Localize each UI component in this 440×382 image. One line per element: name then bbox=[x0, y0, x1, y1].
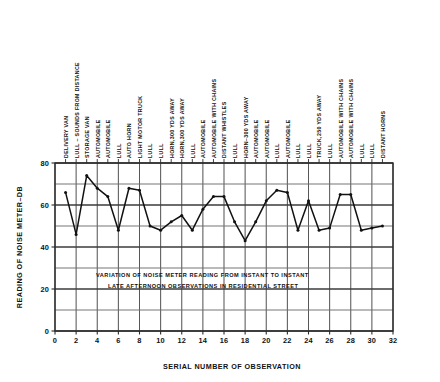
event-label: LULL bbox=[190, 143, 196, 158]
event-label: LULL bbox=[306, 143, 312, 158]
x-tick-label: 24 bbox=[304, 336, 313, 345]
event-label: AUTOMOBILE bbox=[95, 119, 101, 158]
event-label: LULL bbox=[295, 143, 301, 158]
x-tick-label: 32 bbox=[389, 336, 398, 345]
x-tick-label: 26 bbox=[325, 336, 334, 345]
x-tick-label: 10 bbox=[156, 336, 165, 345]
event-label: LULL – SOUNDS FROM DISTANCE bbox=[74, 62, 80, 158]
y-tick-label: 40 bbox=[40, 243, 49, 252]
x-tick-label: 2 bbox=[74, 336, 78, 345]
event-label: HORN–300 YDS AWAY bbox=[243, 96, 249, 158]
event-label: STORAGE VAN bbox=[84, 116, 90, 158]
event-label: AUTOMOBILE bbox=[105, 119, 111, 158]
event-label: AUTOMOBILE bbox=[285, 119, 291, 158]
event-label: LULL bbox=[274, 143, 280, 158]
event-label: LULL bbox=[369, 143, 375, 158]
event-label: TRUCK,250 YDS AWAY bbox=[316, 95, 322, 158]
chart-canvas: 02468101214161820222426283032 020406080 … bbox=[0, 0, 440, 382]
event-label: HORN,300 YDS AWAY bbox=[169, 98, 175, 158]
event-label: LULL bbox=[116, 143, 122, 158]
y-tick-label: 0 bbox=[45, 327, 49, 336]
x-tick-label: 8 bbox=[137, 336, 141, 345]
event-label: LULL bbox=[359, 143, 365, 158]
event-label: AUTOMOBILE WITH CHAINS bbox=[211, 79, 217, 158]
event-label: AUTOMOBILE bbox=[264, 119, 270, 158]
event-label: LULL bbox=[147, 143, 153, 158]
event-label: DISTANT WHISTLES bbox=[221, 101, 227, 158]
x-tick-label: 16 bbox=[220, 336, 229, 345]
x-tick-label: 4 bbox=[95, 336, 100, 345]
event-label: DELIVERY VAN bbox=[63, 116, 69, 158]
x-tick-label: 14 bbox=[199, 336, 208, 345]
event-label: DISTANT HORNS bbox=[380, 111, 386, 158]
event-label: LULL bbox=[158, 143, 164, 158]
x-tick-label: 6 bbox=[116, 336, 120, 345]
y-tick-label: 20 bbox=[40, 285, 49, 294]
x-tick-label: 28 bbox=[346, 336, 355, 345]
x-tick-label: 22 bbox=[283, 336, 292, 345]
event-label: HORN,300 YDS AWAY bbox=[179, 98, 185, 158]
noise-meter-chart-figure: 02468101214161820222426283032 020406080 … bbox=[0, 0, 440, 382]
x-tick-label: 12 bbox=[177, 336, 186, 345]
x-tick-label: 18 bbox=[241, 336, 250, 345]
y-axis-title: READING OF NOISE METER–DB bbox=[15, 186, 24, 308]
caption-line: LATE AFTERNOON OBSERVATIONS IN RESIDENTI… bbox=[108, 283, 298, 289]
x-tick-label: 20 bbox=[262, 336, 271, 345]
event-label: LULL bbox=[327, 143, 333, 158]
event-label: AUTO HORN bbox=[126, 123, 132, 158]
x-tick-label: 30 bbox=[368, 336, 377, 345]
event-label: AUTOMOBILE bbox=[200, 119, 206, 158]
event-label: AUTOMOBILE WITH CHAINS bbox=[338, 79, 344, 158]
y-tick-label: 60 bbox=[40, 201, 49, 210]
caption-line: VARIATION OF NOISE METER READING FROM IN… bbox=[96, 272, 309, 278]
x-tick-label: 0 bbox=[53, 336, 57, 345]
y-tick-label: 80 bbox=[40, 159, 49, 168]
x-axis-title: SERIAL NUMBER OF OBSERVATION bbox=[163, 362, 301, 371]
event-label: AUTOMOBILE WITH CHAINS bbox=[348, 79, 354, 158]
event-label: LULL bbox=[232, 143, 238, 158]
event-label: AUTOMOBILE bbox=[253, 119, 259, 158]
event-label: LIGHT MOTOR TRUCK bbox=[137, 96, 143, 158]
